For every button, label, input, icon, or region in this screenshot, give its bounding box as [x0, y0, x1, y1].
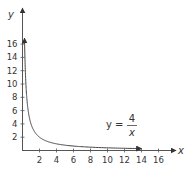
svg-text:y =: y = [106, 119, 123, 130]
reciprocal-function-chart: y x 246810121416 246810121416 y = 4 x [0, 0, 185, 169]
y-tick-label: 14 [7, 52, 18, 62]
x-axis-label: x [177, 145, 184, 156]
y-tick-label: 4 [12, 119, 17, 129]
y-tick-label: 6 [12, 106, 17, 116]
y-tick-label: 16 [7, 39, 18, 49]
y-axis-label: y [7, 9, 15, 20]
x-tick-label: 16 [153, 155, 164, 165]
y-tick-label: 12 [7, 66, 18, 76]
x-tick-label: 14 [136, 155, 147, 165]
x-tick-label: 4 [54, 155, 59, 165]
y-tick-label: 10 [7, 79, 18, 89]
x-tick-label: 6 [71, 155, 76, 165]
x-tick-label: 8 [88, 155, 93, 165]
y-tick-label: 2 [12, 132, 17, 142]
reciprocal-curve [25, 38, 142, 148]
x-tick-label: 2 [37, 155, 42, 165]
x-tick-label: 10 [102, 155, 113, 165]
x-tick-label: 12 [119, 155, 130, 165]
y-tick-label: 8 [12, 92, 17, 102]
y-ticks: 246810121416 [7, 39, 25, 142]
equation-label: y = 4 x [106, 113, 137, 138]
svg-text:x: x [128, 127, 135, 138]
svg-text:4: 4 [129, 113, 135, 124]
